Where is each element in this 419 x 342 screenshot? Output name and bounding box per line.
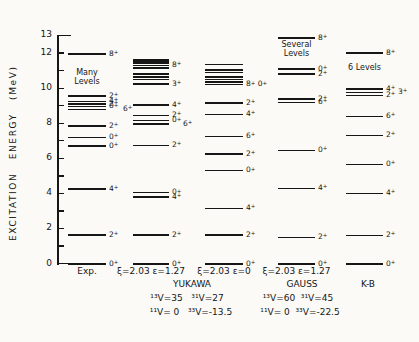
level-line [205, 102, 243, 104]
level-line [346, 95, 383, 97]
level-label: 8+ 0+ [246, 80, 267, 89]
y-axis-tick [58, 70, 64, 71]
level-line [205, 79, 243, 81]
level-line [205, 81, 243, 83]
y-axis-title: EXCITATION ENERGY (MeV) [8, 40, 18, 266]
level-line [133, 65, 169, 67]
level-line [133, 62, 169, 64]
level-line [133, 192, 169, 194]
level-line [133, 79, 169, 81]
level-line [68, 137, 106, 139]
y-axis-tick [58, 175, 64, 176]
y-axis-tick-label: 4 [26, 188, 52, 197]
y-axis-tick [58, 228, 64, 229]
y-axis-tick [58, 193, 64, 194]
level-line [205, 84, 243, 86]
level-line [133, 60, 169, 62]
level-label: 8+ [109, 50, 118, 59]
level-label: 0+ [318, 146, 327, 155]
level-line [278, 37, 315, 39]
y-axis-tick [58, 158, 64, 159]
y-axis-tick [58, 35, 71, 36]
y-axis-tick [58, 105, 64, 106]
level-label: 2+ [246, 99, 255, 108]
levels-note: Many Levels [64, 68, 110, 87]
footer-gauss-title: GAUSS [262, 279, 342, 289]
level-line [346, 116, 383, 118]
level-label: 0+ [318, 65, 327, 74]
level-label: 6+ [246, 132, 255, 141]
level-label: 2+ [109, 92, 118, 101]
level-line [205, 170, 243, 172]
level-line [346, 92, 383, 94]
level-line [205, 72, 243, 74]
y-axis-tick-label: 13 [26, 30, 52, 39]
level-line [133, 123, 169, 125]
level-line [346, 52, 383, 54]
footer-kb-title: K-B [338, 279, 398, 289]
level-label: 0+ [386, 160, 395, 169]
y-axis-tick [58, 210, 64, 211]
level-line [133, 196, 169, 198]
level-line [133, 59, 169, 61]
level-label: 2+ [172, 231, 181, 240]
level-label: 2+ [386, 131, 395, 140]
level-label: 4+ [172, 101, 181, 110]
level-line [278, 150, 315, 152]
energy-level-diagram: EXCITATION ENERGY (MeV) YUKAWA GAUSS K-B… [0, 0, 419, 342]
level-line [68, 106, 106, 108]
y-axis-tick-label: 12 [26, 48, 52, 57]
level-line [278, 73, 315, 75]
level-line [133, 104, 169, 106]
level-label: 0+ [109, 142, 118, 151]
level-label: 2+ [172, 111, 181, 120]
level-line [68, 101, 106, 103]
level-line [346, 88, 383, 90]
y-axis-tick [58, 88, 64, 89]
level-label: 2+ [246, 231, 255, 240]
footer-yukawa-title: YUKAWA [152, 279, 232, 289]
level-line [68, 234, 106, 236]
level-label: 4+ [386, 85, 395, 94]
level-line [205, 76, 243, 78]
level-line [205, 234, 243, 236]
level-label: 2+ [109, 122, 118, 131]
level-label: 4+ [318, 184, 327, 193]
level-label: 4+ [246, 204, 255, 213]
level-line [68, 103, 106, 105]
footer-yukawa-line1: ¹³V=35 ³¹V=27 [127, 293, 247, 303]
level-line [278, 102, 315, 104]
level-label: 8+ [386, 49, 395, 58]
level-label: 2+ [386, 231, 395, 240]
level-label: 4+ [109, 185, 118, 194]
level-line [278, 263, 315, 265]
level-line [346, 235, 383, 237]
level-label: 2+ [109, 231, 118, 240]
level-label: 0+ [386, 260, 395, 269]
level-label: 4+ [246, 110, 255, 119]
y-axis-tick [58, 123, 64, 124]
level-line [278, 188, 315, 190]
level-line [346, 193, 383, 195]
level-label: 2+ [318, 95, 327, 104]
footer-gauss-line1: ¹³V=60 ³¹V=45 [240, 293, 356, 303]
level-label: 0+ [109, 133, 118, 142]
level-label: 0+ [172, 188, 181, 197]
level-label: 6+ [183, 120, 192, 129]
level-line [133, 115, 169, 117]
y-axis-tick-label: 6 [26, 153, 52, 162]
level-line [133, 234, 169, 236]
level-line [68, 125, 106, 127]
level-line [205, 114, 243, 116]
level-label: 2+ [318, 233, 327, 242]
level-line [205, 136, 243, 138]
levels-note: 6 Levels [342, 63, 388, 73]
level-line [133, 67, 169, 69]
level-line [133, 76, 169, 78]
level-line [205, 208, 243, 210]
footer-gauss-line2: ¹¹V= 0 ³³V=-22.5 [238, 307, 362, 317]
footer-yukawa-line2: ¹¹V= 0 ³³V=-13.5 [127, 307, 255, 317]
y-axis-tick [58, 140, 64, 141]
level-line [68, 263, 106, 265]
level-line [68, 145, 106, 147]
